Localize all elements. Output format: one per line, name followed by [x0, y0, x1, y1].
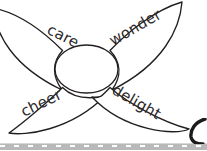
partial-circle-icon — [189, 118, 207, 144]
footer-dash-pattern — [0, 145, 207, 147]
petal-diagram-artwork: care wonder cheer delight — [0, 0, 207, 151]
footer-dashed-strip — [0, 143, 207, 150]
partial-circle-glyph — [189, 118, 207, 144]
footer-strip-edge — [0, 143, 207, 144]
center-ellipse[interactable] — [55, 45, 118, 93]
diagram-canvas: care wonder cheer delight — [0, 0, 207, 151]
